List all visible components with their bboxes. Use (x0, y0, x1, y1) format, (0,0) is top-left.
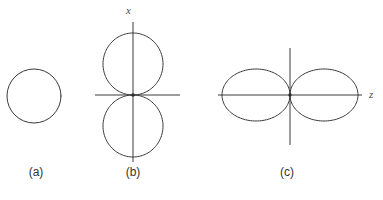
caption-b: (b) (113, 166, 153, 178)
isotropic-circle-curve (7, 69, 61, 123)
radiation-pattern-figure: x z (a) (b) (c) (0, 0, 383, 200)
panel-c-origin-dot (288, 93, 291, 96)
axis-label-z: z (369, 89, 373, 100)
panel-b-origin-dot (131, 93, 134, 96)
caption-c: (c) (267, 166, 307, 178)
caption-a: (a) (16, 166, 56, 178)
axis-label-x: x (126, 5, 131, 16)
